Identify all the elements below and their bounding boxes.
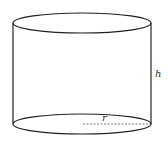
height-label: h xyxy=(155,68,161,79)
top-ellipse xyxy=(13,13,151,33)
cylinder-diagram: r h xyxy=(0,0,168,147)
radius-label: r xyxy=(102,112,108,123)
